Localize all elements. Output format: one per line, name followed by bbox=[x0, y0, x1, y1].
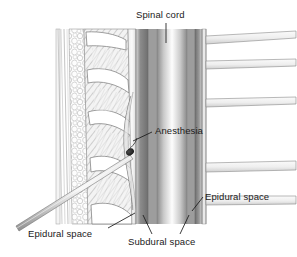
label-anesthesia: Anesthesia bbox=[155, 126, 203, 136]
label-epidural-space-left: Epidural space bbox=[28, 229, 92, 239]
spinal-anesthesia-illustration bbox=[0, 0, 297, 257]
label-spinal-cord: Spinal cord bbox=[136, 10, 185, 20]
dura-mater-left bbox=[136, 29, 148, 224]
label-epidural-space-right: Epidural space bbox=[205, 192, 269, 202]
label-subdural-space: Subdural space bbox=[128, 237, 195, 247]
nerve-root bbox=[206, 161, 296, 172]
